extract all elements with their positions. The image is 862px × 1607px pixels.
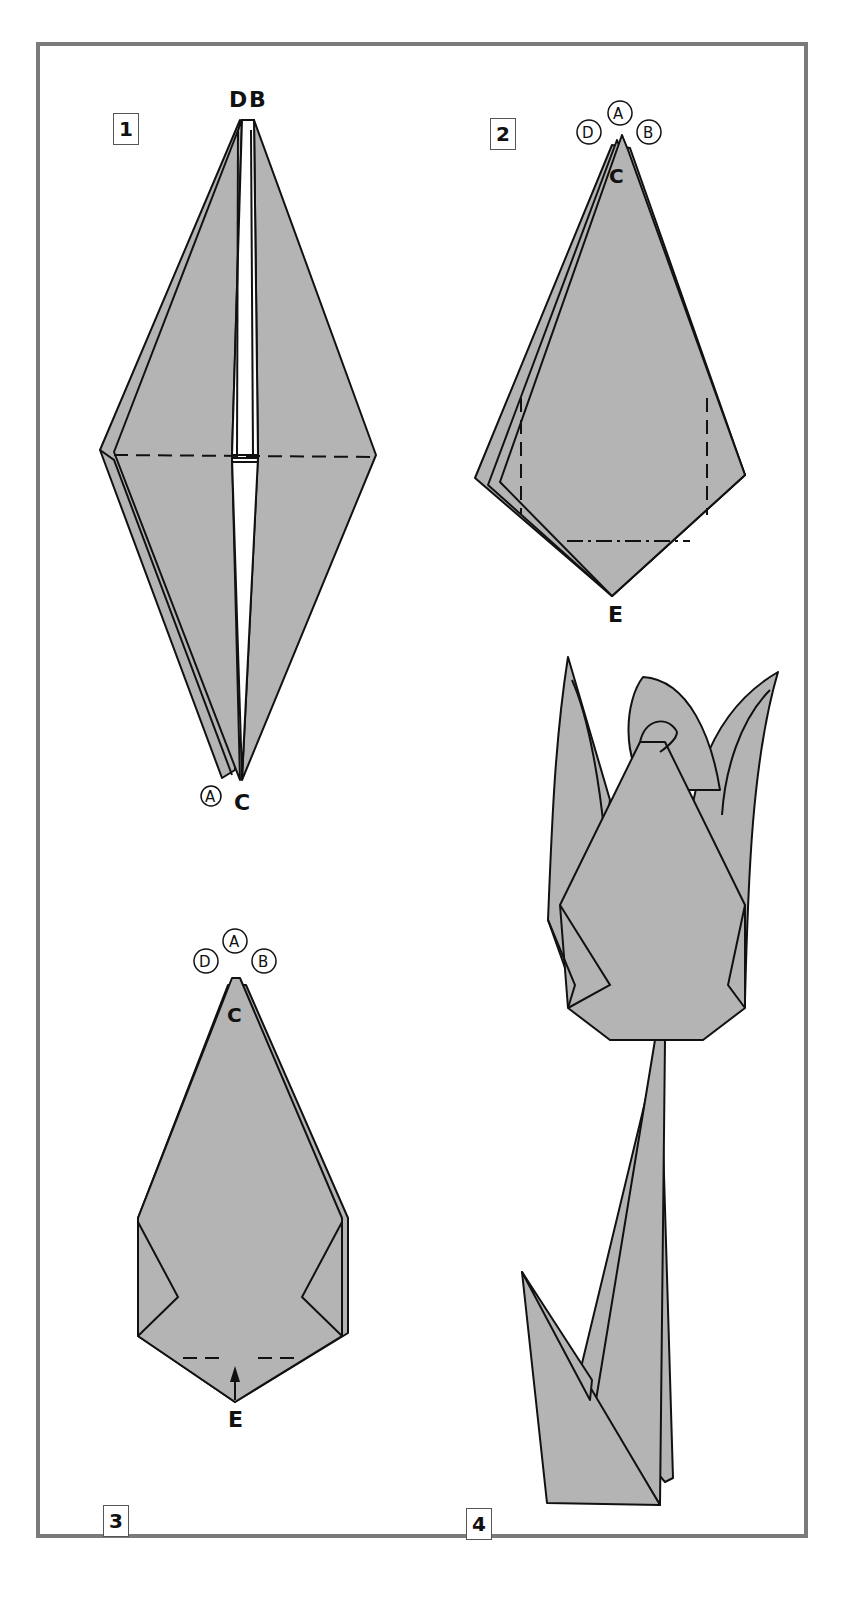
label-A-step1: A	[205, 788, 216, 806]
label-C-step3: C	[227, 1003, 242, 1027]
step-number-4: 4	[466, 1508, 492, 1540]
step-number-3: 3	[103, 1505, 129, 1537]
step-number-2: 2	[490, 118, 516, 150]
step-1-figure	[100, 120, 376, 780]
origami-diagram: .p { fill:#b4b4b4; stroke:#111; stroke-w…	[0, 0, 862, 1607]
label-A-step2: A	[613, 105, 624, 123]
label-B-step1: B	[249, 87, 266, 112]
label-C-step1: C	[234, 790, 250, 815]
label-E-step2: E	[608, 602, 623, 627]
label-B-step3: B	[258, 953, 268, 971]
step-number-1: 1	[113, 113, 139, 145]
label-E-step3: E	[228, 1407, 243, 1432]
step-3-figure	[138, 978, 348, 1402]
step-4-figure	[522, 657, 778, 1505]
label-D-step3: D	[199, 953, 211, 971]
label-D-step1: D	[229, 87, 247, 112]
label-B-step2: B	[643, 124, 653, 142]
label-D-step2: D	[582, 124, 594, 142]
label-A-step3: A	[229, 933, 240, 951]
step-2-figure	[475, 135, 745, 596]
label-C-step2: C	[609, 164, 624, 188]
